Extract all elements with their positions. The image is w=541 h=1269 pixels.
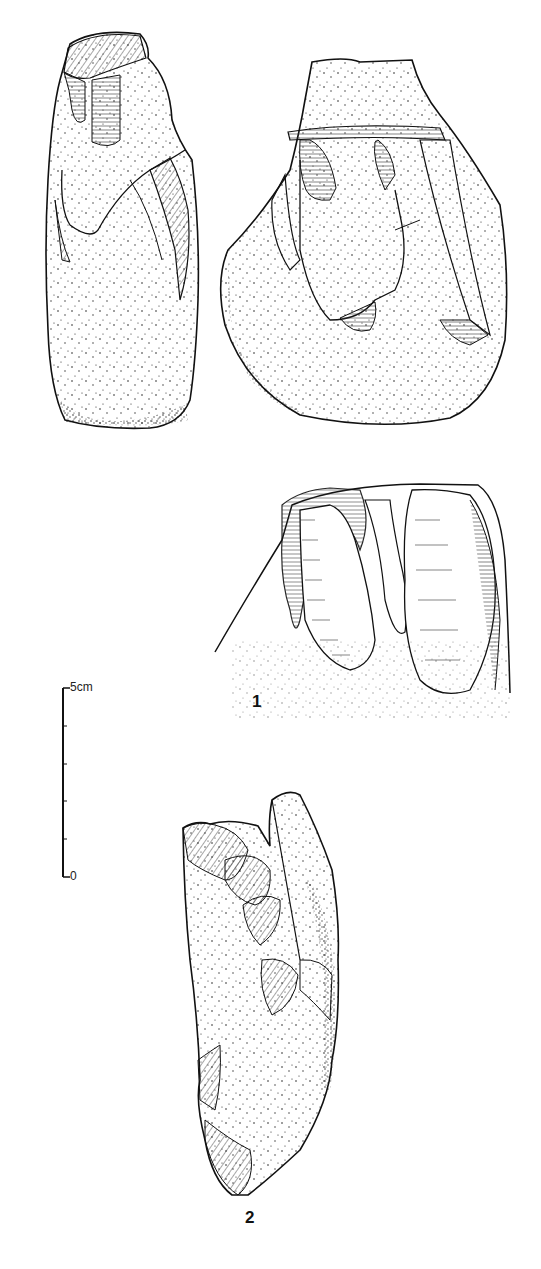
item-1-front-view: [221, 59, 507, 424]
scale-bar: [63, 688, 70, 877]
scale-bar-bottom-label: 0: [70, 869, 77, 883]
figure-caption: [0, 1259, 541, 1269]
item-1-detail-view: [215, 484, 510, 720]
figure-label-1: 1: [252, 692, 261, 712]
item-2-drawing: [183, 792, 338, 1195]
figure-label-2: 2: [245, 1208, 254, 1228]
item-1-side-view: [46, 32, 198, 428]
lithic-drawings: [0, 0, 541, 1269]
scale-bar-top-label: 5cm: [70, 680, 93, 694]
